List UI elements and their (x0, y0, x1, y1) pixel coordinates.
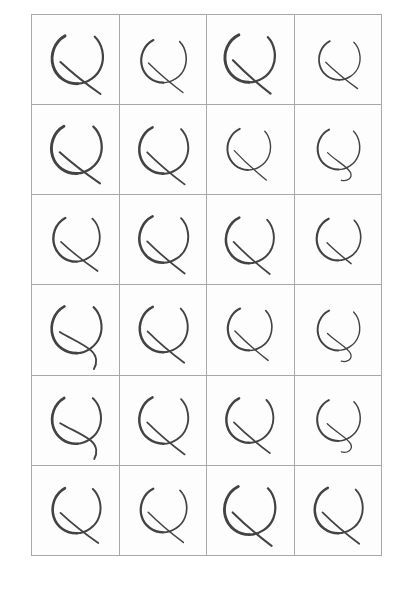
left-arc (317, 130, 338, 170)
left-arc (227, 129, 249, 171)
left-arc (51, 306, 77, 354)
handwritten-curl-glyph-icon (120, 195, 207, 284)
left-arc (314, 488, 337, 533)
handwritten-curl-glyph-icon (32, 195, 119, 284)
glyph-cell (32, 285, 120, 375)
left-arc (226, 398, 249, 443)
glyph-cell (207, 466, 295, 556)
handwritten-curl-glyph-icon (207, 15, 294, 104)
glyph-cell (120, 466, 208, 556)
glyph-cell (207, 376, 295, 466)
right-arc (249, 400, 273, 443)
right-arc (163, 309, 187, 353)
left-arc (53, 218, 77, 263)
glyph-cell (120, 195, 208, 285)
handwritten-curl-glyph-icon (207, 466, 294, 555)
right-arc (249, 488, 275, 534)
left-arc (141, 40, 163, 83)
handwriting-glyph-grid (31, 14, 382, 556)
left-arc (317, 311, 338, 351)
right-arc (76, 36, 104, 83)
glyph-cell (120, 285, 208, 375)
handwritten-curl-glyph-icon (295, 105, 382, 194)
tail-stroke (60, 150, 100, 185)
left-arc (139, 217, 163, 263)
glyph-cell (32, 466, 120, 556)
glyph-cell (207, 105, 295, 195)
left-arc (316, 219, 338, 261)
glyph-cell (295, 15, 383, 105)
right-arc (163, 129, 188, 174)
left-arc (51, 35, 78, 84)
glyph-cell (32, 15, 120, 105)
glyph-cell (32, 376, 120, 466)
handwritten-curl-glyph-icon (295, 376, 382, 465)
handwritten-curl-glyph-icon (207, 376, 294, 465)
left-arc (227, 309, 249, 351)
handwritten-curl-glyph-icon (120, 376, 207, 465)
glyph-cell (120, 376, 208, 466)
right-arc (338, 489, 362, 533)
left-arc (226, 218, 250, 264)
left-arc (318, 41, 339, 80)
glyph-cell (207, 15, 295, 105)
handwritten-curl-glyph-icon (32, 15, 119, 104)
right-arc (163, 490, 186, 532)
right-arc (249, 311, 272, 352)
handwritten-curl-glyph-icon (207, 285, 294, 374)
handwritten-curl-glyph-icon (32, 105, 119, 194)
right-arc (75, 489, 101, 534)
left-arc (139, 127, 163, 173)
right-arc (75, 126, 103, 173)
right-arc (338, 42, 360, 80)
right-arc (163, 42, 186, 83)
right-arc (75, 398, 102, 444)
left-arc (52, 488, 77, 534)
right-arc (75, 307, 102, 353)
glyph-cell (32, 105, 120, 195)
left-arc (51, 397, 77, 445)
tail-stroke (61, 241, 98, 273)
tail-stroke (60, 511, 98, 544)
left-arc (50, 126, 77, 175)
glyph-cell (120, 15, 208, 105)
right-arc (249, 220, 274, 264)
glyph-cell (295, 376, 383, 466)
left-arc (139, 397, 163, 443)
handwritten-curl-glyph-icon (295, 195, 382, 284)
scanned-sheet (0, 0, 412, 595)
glyph-cell (295, 195, 383, 285)
handwritten-curl-glyph-icon (120, 466, 207, 555)
right-arc (75, 219, 100, 262)
handwritten-curl-glyph-icon (120, 15, 207, 104)
glyph-cell (295, 466, 383, 556)
glyph-cell (207, 285, 295, 375)
glyph-cell (295, 105, 383, 195)
right-arc (248, 131, 271, 171)
handwritten-curl-glyph-icon (207, 105, 294, 194)
handwritten-curl-glyph-icon (295, 466, 382, 555)
glyph-cell (295, 285, 383, 375)
glyph-cell (207, 195, 295, 285)
left-arc (317, 400, 338, 441)
left-arc (140, 489, 163, 533)
handwritten-curl-glyph-icon (207, 195, 294, 284)
left-arc (224, 486, 249, 534)
handwritten-curl-glyph-icon (295, 285, 382, 374)
glyph-cell (120, 105, 208, 195)
handwritten-curl-glyph-icon (32, 376, 119, 465)
right-arc (249, 37, 275, 83)
handwritten-curl-glyph-icon (295, 15, 382, 104)
right-arc (338, 221, 360, 261)
glyph-cell (32, 195, 120, 285)
right-arc (163, 219, 188, 264)
handwritten-curl-glyph-icon (32, 285, 119, 374)
left-arc (139, 307, 162, 352)
right-arc (163, 399, 188, 444)
handwritten-curl-glyph-icon (120, 285, 207, 374)
left-arc (225, 35, 250, 83)
handwritten-curl-glyph-icon (120, 105, 207, 194)
handwritten-curl-glyph-icon (32, 466, 119, 555)
